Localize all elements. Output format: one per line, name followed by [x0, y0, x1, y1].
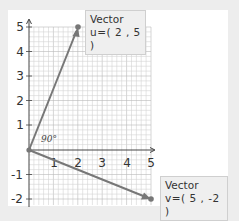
x-tick-3: 3 [98, 156, 106, 170]
y-tick-1: 1 [16, 118, 24, 132]
y-tick-minus-1: -1 [11, 168, 23, 182]
y-tick-2: 2 [16, 94, 24, 108]
vector-v-label: Vector v=( 5 , -2 ) [160, 176, 228, 221]
vector-u-label-equation: u=( 2 , 5 ) [90, 26, 141, 52]
angle-label: 90° [41, 134, 57, 144]
y-tick-4: 4 [16, 45, 24, 59]
x-tick-4: 4 [123, 156, 131, 170]
y-tick-5: 5 [16, 20, 24, 34]
vector-v-label-equation: v=( 5 , -2 ) [165, 192, 223, 218]
y-tick-minus-2: -2 [11, 192, 23, 206]
vector-u-label-title: Vector [90, 13, 141, 26]
x-tick-5: 5 [147, 156, 155, 170]
origin-point [26, 147, 31, 152]
vector-u-label: Vector u=( 2 , 5 ) [85, 10, 146, 55]
y-tick-3: 3 [16, 69, 24, 83]
vector-v-label-title: Vector [165, 179, 223, 192]
